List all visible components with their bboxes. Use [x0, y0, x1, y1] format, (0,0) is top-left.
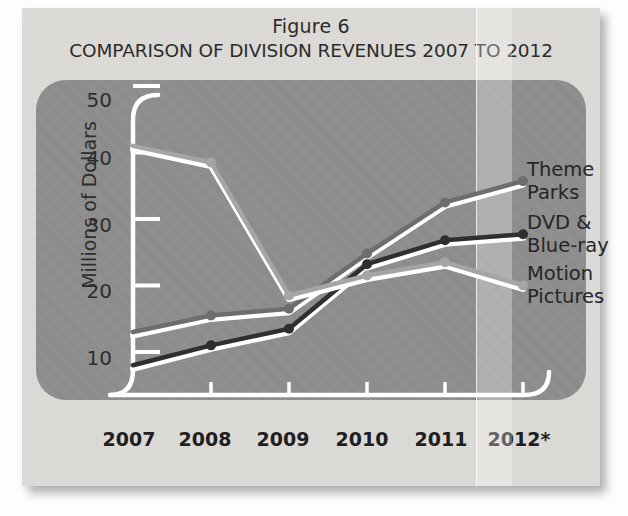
data-point-theme-parks-2012[interactable] [518, 176, 528, 186]
data-point-motion-pictures-2010[interactable] [362, 271, 372, 281]
data-point-motion-pictures-2012[interactable] [518, 281, 528, 291]
data-point-motion-pictures-2011[interactable] [440, 257, 450, 267]
data-point-motion-pictures-2008[interactable] [206, 157, 216, 167]
data-point-theme-parks-2011[interactable] [440, 197, 450, 207]
data-point-dvd-blue-ray-2012[interactable] [518, 229, 528, 239]
series-halo-motion-pictures [133, 149, 523, 299]
series-layer [133, 146, 528, 369]
data-point-dvd-blue-ray-2009[interactable] [284, 324, 294, 334]
data-point-dvd-blue-ray-2011[interactable] [440, 235, 450, 245]
data-point-dvd-blue-ray-2010[interactable] [362, 259, 372, 269]
y-tick-marks [133, 86, 160, 352]
series-halo-theme-parks [133, 185, 523, 336]
x-axis-spine [110, 372, 549, 395]
data-point-theme-parks-2010[interactable] [362, 249, 372, 259]
series-line-theme-parks[interactable] [133, 181, 523, 332]
data-point-theme-parks-2009[interactable] [284, 304, 294, 314]
data-point-dvd-blue-ray-2008[interactable] [206, 340, 216, 350]
data-point-motion-pictures-2009[interactable] [284, 290, 294, 300]
chart-canvas [0, 0, 628, 516]
data-point-theme-parks-2008[interactable] [206, 310, 216, 320]
figure-root: Figure 6 COMPARISON OF DIVISION REVENUES… [0, 0, 628, 516]
